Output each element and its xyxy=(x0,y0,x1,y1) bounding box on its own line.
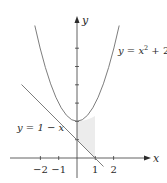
x-tick-label: 2 xyxy=(110,164,116,175)
parabola-label: y = x2 + 2 xyxy=(117,44,167,56)
line-label: y = 1 − x xyxy=(16,122,64,133)
shaded-region xyxy=(77,116,95,158)
graph: −2 −1 1 2 x y y = x2 + 2 y = 1 − x xyxy=(0,0,167,183)
y-axis-arrow-icon xyxy=(75,16,80,23)
x-tick-label: −1 xyxy=(51,164,66,175)
x-tick-label: 1 xyxy=(92,164,98,175)
y-axis-label: y xyxy=(81,14,89,27)
x-tick-label: −2 xyxy=(33,164,48,175)
x-axis-label: x xyxy=(153,152,160,165)
x-axis-arrow-icon xyxy=(144,156,151,161)
